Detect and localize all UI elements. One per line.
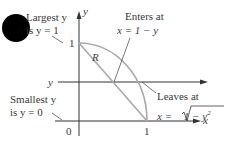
leaves-prefix: x = <box>157 110 175 122</box>
region-label: R <box>92 51 99 63</box>
leader-enters <box>114 38 130 82</box>
x-axis-label: x <box>203 114 208 126</box>
y-level-arrow-icon <box>200 80 208 85</box>
tick-x1-label: 1 <box>144 125 150 137</box>
y-axis-label: y <box>83 5 88 17</box>
smallest-label-line2: is y = 0 <box>10 106 43 118</box>
largest-label-line2: is y = 1 <box>26 24 59 36</box>
leader-smallest <box>52 113 62 120</box>
y-line-label: y <box>48 76 53 88</box>
enters-label-line2: x = 1 − y <box>117 24 158 36</box>
y-axis-arrow-icon <box>77 11 82 19</box>
smallest-label-line1: Smallest y <box>10 93 56 105</box>
tick-y1-label: 1 <box>69 37 75 49</box>
enters-label-line1: Enters at <box>125 10 164 22</box>
largest-label-line1: Largest y <box>26 11 67 23</box>
leader-largest <box>52 36 63 43</box>
leader-leaves <box>142 82 156 93</box>
leaves-label-line1: Leaves at <box>157 90 199 102</box>
origin-label: 0 <box>66 125 72 137</box>
